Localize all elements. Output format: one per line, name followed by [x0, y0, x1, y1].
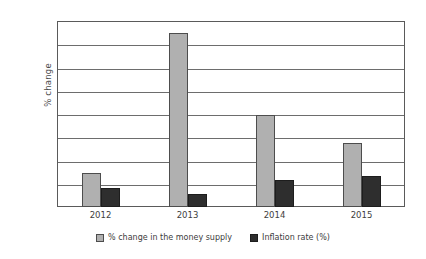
x-axis-tick-label: 2015	[318, 210, 405, 220]
bar-group	[57, 21, 144, 207]
legend-item[interactable]: Inflation rate (%)	[250, 233, 330, 242]
bar-group	[231, 21, 318, 207]
bar[interactable]	[82, 173, 101, 207]
bar[interactable]	[188, 194, 207, 207]
legend-label: % change in the money supply	[108, 233, 232, 242]
bar-group	[144, 21, 231, 207]
y-axis-title: % change	[43, 45, 53, 125]
legend-label: Inflation rate (%)	[262, 233, 330, 242]
bar[interactable]	[256, 115, 275, 207]
bar[interactable]	[169, 33, 188, 207]
chart-legend: % change in the money supplyInflation ra…	[0, 233, 426, 242]
x-axis-ticks: 2012201320142015	[57, 210, 405, 220]
x-axis-tick-label: 2014	[231, 210, 318, 220]
x-axis-tick-label: 2012	[57, 210, 144, 220]
bar[interactable]	[101, 188, 120, 207]
legend-swatch-icon	[250, 234, 258, 242]
bar-groups	[57, 21, 405, 207]
x-axis-tick-label: 2013	[144, 210, 231, 220]
bar[interactable]	[343, 143, 362, 207]
bar-chart: % change 0246810121416 2012201320142015 …	[0, 0, 426, 259]
bar[interactable]	[362, 176, 381, 207]
legend-item[interactable]: % change in the money supply	[96, 233, 232, 242]
legend-swatch-icon	[96, 234, 104, 242]
bar-group	[318, 21, 405, 207]
bar[interactable]	[275, 180, 294, 207]
